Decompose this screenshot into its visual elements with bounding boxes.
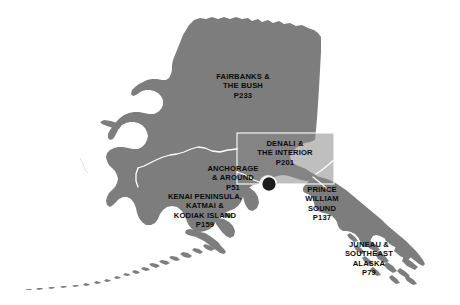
- label-line-2: THE INTERIOR: [235, 148, 335, 157]
- alaska-peninsula-shape: [185, 229, 226, 254]
- region-label-denali-and-the-interior[interactable]: DENALI & THE INTERIOR p201: [235, 139, 335, 167]
- label-line-1: ANCHORAGE: [183, 164, 283, 173]
- label-line-1: KENAI PENINSULA,: [145, 192, 265, 201]
- region-label-fairbanks-and-the-bush[interactable]: FAIRBANKS & THE BUSH p233: [193, 72, 293, 100]
- label-page: p137: [288, 213, 356, 222]
- region-label-juneau-and-southeast-alaska[interactable]: JUNEAU & SOUTHEAST ALASKA p79: [328, 240, 410, 278]
- region-label-anchorage-and-around[interactable]: ANCHORAGE & AROUND p51: [183, 164, 283, 192]
- label-page: p79: [328, 268, 410, 277]
- label-line-2: KATMAI &: [145, 201, 265, 210]
- label-line-2: & AROUND: [183, 173, 283, 182]
- label-line-3: ALASKA: [328, 259, 410, 268]
- label-page: p51: [183, 183, 283, 192]
- label-page: p233: [193, 91, 293, 100]
- label-line-1: PRINCE: [288, 185, 356, 194]
- label-line-1: FAIRBANKS &: [193, 72, 293, 81]
- label-page: p159: [145, 220, 265, 229]
- region-label-prince-william-sound[interactable]: PRINCE WILLIAM SOUND p137: [288, 185, 356, 223]
- label-line-3: SOUND: [288, 204, 356, 213]
- scan-artifact: [80, 158, 88, 173]
- label-line-1: JUNEAU &: [328, 240, 410, 249]
- label-line-1: DENALI &: [235, 139, 335, 148]
- label-line-2: THE BUSH: [193, 81, 293, 90]
- alaska-region-map: FAIRBANKS & THE BUSH p233 DENALI & THE I…: [0, 0, 460, 305]
- aleutian-islands-group: [25, 244, 215, 290]
- region-label-kenai-peninsula-katmai-and-kodiak-island[interactable]: KENAI PENINSULA, KATMAI & KODIAK ISLAND …: [145, 192, 265, 230]
- label-line-2: SOUTHEAST: [328, 249, 410, 258]
- label-line-2: WILLIAM: [288, 194, 356, 203]
- label-line-3: KODIAK ISLAND: [145, 211, 265, 220]
